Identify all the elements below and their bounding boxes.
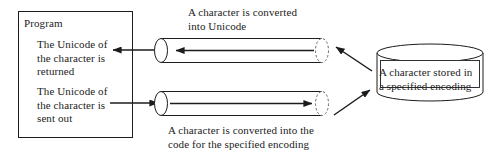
storage-label-text: A character stored in a specified encodi… xyxy=(379,66,472,93)
encoding-conversion-diagram: Program The Unicode of the character is … xyxy=(0,0,504,155)
decode-pipe-near-end xyxy=(155,39,168,63)
caption-encode: A character is converted into the code f… xyxy=(168,124,314,151)
caption-decode: A character is converted into Unicode xyxy=(188,6,297,33)
encode-pipe-near-end xyxy=(155,92,168,116)
arrow-encode-pipe-to-storage xyxy=(334,90,370,115)
decode-pipe xyxy=(155,39,329,63)
arrow-storage-to-decode-pipe xyxy=(336,47,372,71)
program-send-text: The Unicode of the character is sent out xyxy=(37,85,107,126)
encode-pipe xyxy=(155,92,329,116)
decode-pipe-far-end xyxy=(316,39,329,63)
program-return-text: The Unicode of the character is returned xyxy=(37,38,107,79)
program-box-title: Program xyxy=(24,17,63,31)
encode-pipe-far-end xyxy=(316,92,329,116)
